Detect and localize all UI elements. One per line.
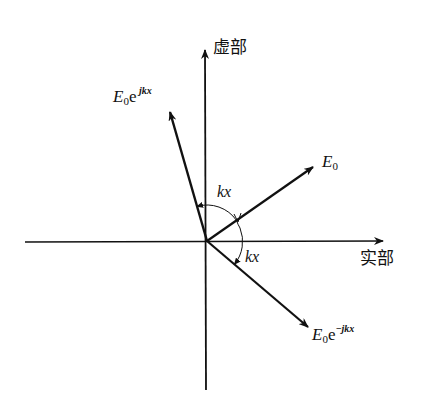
angle-label-lower: kx <box>245 249 259 265</box>
imaginary-axis-label: 虚部 <box>213 39 247 56</box>
label-e0-e-minus-jkx: E0e−jkx <box>312 324 354 345</box>
label-e0: E0 <box>322 153 338 172</box>
angle-label-upper: kx <box>217 184 231 200</box>
vector-e0-e-jkx <box>170 112 207 241</box>
imaginary-axis <box>205 50 206 390</box>
angle-arc-upper <box>197 205 236 220</box>
label-e0-e-jkx: E0e jkx <box>113 86 152 107</box>
real-axis-label: 实部 <box>360 250 394 267</box>
real-axis <box>25 241 383 242</box>
phasor-diagram <box>0 0 421 414</box>
vector-e0 <box>207 167 313 241</box>
angle-arc-lower <box>235 228 243 264</box>
